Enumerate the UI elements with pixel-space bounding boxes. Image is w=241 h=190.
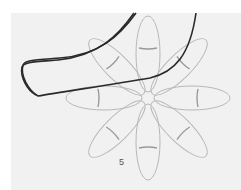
petal [144, 94, 215, 165]
petal [82, 94, 153, 165]
petal [136, 16, 160, 92]
petal [136, 104, 160, 180]
petal [144, 32, 215, 103]
petal [82, 32, 153, 103]
step-number-label: 5 [119, 157, 124, 167]
petal [154, 86, 230, 110]
wire [22, 13, 196, 96]
